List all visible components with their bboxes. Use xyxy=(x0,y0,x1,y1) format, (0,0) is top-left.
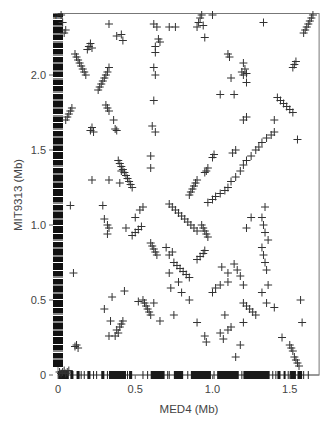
plus-marker xyxy=(105,64,113,72)
plus-marker xyxy=(150,97,158,105)
y-rug-gap xyxy=(53,248,63,249)
plus-marker xyxy=(258,289,266,297)
x-axis-title: MED4 (Mb) xyxy=(160,403,219,415)
x-rug-block xyxy=(277,371,280,379)
y-rug-gap xyxy=(53,256,63,257)
plus-marker xyxy=(122,224,130,232)
y-rug-gap xyxy=(53,93,63,94)
y-rug-gap xyxy=(53,40,63,41)
plus-marker xyxy=(247,214,255,222)
x-rug-block xyxy=(174,371,183,379)
plus-marker xyxy=(264,236,272,244)
y-rug-gap xyxy=(53,167,63,168)
y-rug-gap xyxy=(53,299,63,300)
x-rug-block xyxy=(217,371,239,379)
plus-marker xyxy=(107,317,115,325)
plus-marker xyxy=(201,34,209,42)
y-rug-gap xyxy=(53,92,63,93)
y-rug-gap xyxy=(53,277,63,278)
y-rug-gap xyxy=(53,211,63,212)
x-rug-block xyxy=(129,371,132,379)
plus-marker xyxy=(134,298,142,306)
y-rug-gap xyxy=(53,262,63,263)
y-rug-gap xyxy=(53,182,63,183)
plus-marker xyxy=(178,289,186,297)
x-rug-block xyxy=(87,371,90,379)
y-rug-gap xyxy=(53,188,63,189)
y-axis-title: MIT9313 (Mb) xyxy=(12,159,24,231)
plus-marker xyxy=(297,296,305,304)
y-rug-gap xyxy=(53,63,63,64)
plus-marker xyxy=(111,125,119,133)
x-tick-label: 0 xyxy=(55,383,61,395)
y-rug-gap xyxy=(53,359,63,360)
plus-marker xyxy=(120,287,128,295)
x-tick-label: 0.5 xyxy=(128,383,143,395)
y-rug-gap xyxy=(53,34,63,35)
data-points xyxy=(56,11,317,378)
y-rug-gap xyxy=(53,336,63,337)
plus-marker xyxy=(147,164,155,172)
y-rug-gap xyxy=(53,241,63,242)
plus-marker xyxy=(156,317,164,325)
plus-marker xyxy=(185,296,193,304)
plus-marker xyxy=(113,127,121,135)
plus-marker xyxy=(150,299,158,307)
plus-marker xyxy=(150,64,158,72)
plus-marker xyxy=(242,79,250,87)
y-rug-gap xyxy=(53,233,63,234)
x-rug-block xyxy=(77,371,80,379)
x-rug-block xyxy=(101,371,104,379)
y-rug-gap xyxy=(53,203,63,204)
plus-marker xyxy=(131,214,139,222)
y-rug-gap xyxy=(53,240,63,241)
y-rug-gap xyxy=(53,56,63,57)
y-tick-label: 0.5 xyxy=(31,294,46,306)
x-rug-block xyxy=(297,371,302,379)
plus-marker xyxy=(239,281,247,289)
plus-marker xyxy=(227,74,235,82)
plus-marker xyxy=(99,202,107,210)
y-rug-gap xyxy=(53,145,63,146)
y-rug-gap xyxy=(53,219,63,220)
y-rug-gap xyxy=(53,196,63,197)
y-rug-gap xyxy=(53,285,63,286)
y-tick-label: 0 xyxy=(40,369,46,381)
y-rug-gap xyxy=(53,351,63,352)
y-rug-gap xyxy=(53,116,63,117)
plus-marker xyxy=(116,179,124,187)
y-rug-gap xyxy=(53,130,63,131)
plus-marker xyxy=(239,59,247,67)
plus-marker xyxy=(105,332,113,340)
plus-marker xyxy=(298,319,306,327)
y-rug-gap xyxy=(53,71,63,72)
plus-marker xyxy=(216,91,224,99)
plus-marker xyxy=(117,31,125,39)
y-rug-gap xyxy=(53,322,63,323)
y-rug-gap xyxy=(53,79,63,80)
plus-marker xyxy=(69,269,77,277)
x-rug-block xyxy=(284,371,286,379)
plus-marker xyxy=(108,293,116,301)
plus-marker xyxy=(224,269,232,277)
y-rug-gap xyxy=(53,26,63,27)
plus-marker xyxy=(236,341,244,349)
y-rug-gap xyxy=(53,278,63,279)
y-rug-gap xyxy=(53,85,63,86)
plus-marker xyxy=(293,136,301,144)
plus-marker xyxy=(270,116,278,124)
plus-marker xyxy=(162,244,170,252)
y-rug-gap xyxy=(53,307,63,308)
y-rug-gap xyxy=(53,330,63,331)
plus-marker xyxy=(263,266,271,274)
y-rug-gap xyxy=(53,344,63,345)
dot-plot-chart: + 00.51.01.5 00.51.01.52.0 MED4 (Mb) MIT… xyxy=(0,0,327,426)
plus-marker xyxy=(270,304,278,312)
plus-marker xyxy=(224,278,232,286)
y-rug-gap xyxy=(53,166,63,167)
plus-marker xyxy=(258,214,266,222)
y-axis-ticks: 00.51.01.52.0 xyxy=(31,69,53,381)
plus-marker xyxy=(167,284,175,292)
plus-marker xyxy=(171,23,179,31)
y-rug-gap xyxy=(53,204,63,205)
